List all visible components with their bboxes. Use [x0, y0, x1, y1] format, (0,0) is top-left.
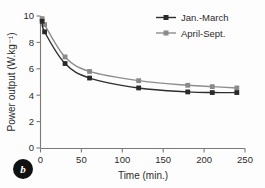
data-point — [87, 76, 92, 81]
data-point — [185, 83, 190, 88]
data-point — [40, 19, 45, 24]
figure-panel-b: 0 2 4 6 8 10 Power output (W.kg⁻¹) 0 50 … — [0, 0, 265, 188]
data-point — [234, 86, 239, 91]
x-tick-label-50: 50 — [76, 154, 87, 165]
x-tick-label-250: 250 — [237, 154, 253, 165]
x-tick-label-0: 0 — [38, 154, 43, 165]
data-point — [185, 90, 190, 95]
y-axis-title: Power output (W.kg⁻¹) — [6, 33, 17, 132]
data-point — [42, 29, 47, 34]
panel-letter-text: b — [20, 163, 26, 175]
data-point — [63, 61, 68, 66]
legend-marker-april-sept — [164, 31, 169, 36]
legend-label-jan-march: Jan.-March — [181, 12, 229, 23]
y-tick-label-4: 4 — [29, 90, 34, 101]
data-point — [234, 90, 239, 95]
data-point — [210, 90, 215, 95]
panel-letter-badge: b — [13, 159, 33, 179]
legend-marker-jan-march — [164, 15, 169, 20]
x-tick-label-200: 200 — [196, 154, 212, 165]
x-tick-label-100: 100 — [114, 154, 130, 165]
data-point — [210, 84, 215, 89]
chart-svg: 0 2 4 6 8 10 Power output (W.kg⁻¹) 0 50 … — [0, 0, 265, 188]
y-tick-label-10: 10 — [23, 10, 34, 21]
data-point — [136, 78, 141, 83]
x-axis-title: Time (min.) — [118, 170, 168, 181]
data-point — [87, 69, 92, 74]
legend-label-april-sept: April-Sept. — [181, 28, 225, 39]
y-tick-label-0: 0 — [29, 142, 34, 153]
x-tick-label-150: 150 — [155, 154, 171, 165]
data-point — [63, 55, 68, 60]
y-tick-label-8: 8 — [29, 37, 34, 48]
y-tick-label-2: 2 — [29, 116, 34, 127]
y-tick-label-6: 6 — [29, 63, 34, 74]
data-point — [136, 86, 141, 91]
